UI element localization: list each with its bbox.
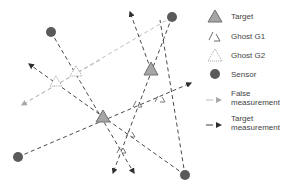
ghost-g1-icon (155, 96, 165, 102)
legend-label: False measurement (231, 89, 295, 107)
target-icon (144, 62, 158, 75)
sensor-icon (205, 67, 227, 81)
false-measurement-icon (205, 91, 227, 105)
ghost-g2-icon (205, 48, 227, 62)
legend-item-false-measurement: False measurement (205, 89, 295, 107)
target-measurement-lines (18, 12, 191, 175)
ghost-g1-icon (205, 29, 227, 43)
legend-item-ghost-g1: Ghost G1 (205, 29, 265, 43)
legend-item-target: Target (205, 9, 253, 23)
target-icon (205, 9, 227, 23)
legend-label: Sensor (231, 70, 256, 79)
legend-label: Ghost G1 (231, 32, 265, 41)
legend-label: Target measurement (231, 114, 295, 132)
legend: Target Ghost G1 Ghost G2 Sensor False me… (205, 0, 299, 184)
ghost-g2-icon (50, 76, 62, 86)
sensor-markers (13, 12, 190, 180)
legend-label: Target (231, 12, 253, 21)
legend-item-sensor: Sensor (205, 67, 256, 81)
target-markers (96, 62, 158, 122)
legend-item-target-measurement: Target measurement (205, 114, 295, 132)
false-measurement-lines (22, 17, 172, 105)
sensor-diagram (0, 0, 205, 184)
sensor-icon (167, 12, 177, 22)
legend-item-ghost-g2: Ghost G2 (205, 48, 265, 62)
target-measurement-icon (205, 116, 227, 130)
sensor-icon (13, 152, 23, 162)
ghost-g2-markers (50, 66, 82, 86)
sensor-icon (46, 27, 56, 37)
sensor-icon (180, 170, 190, 180)
legend-label: Ghost G2 (231, 51, 265, 60)
